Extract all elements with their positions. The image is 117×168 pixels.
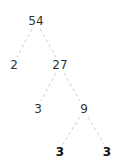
edge-27-3 (41, 73, 56, 101)
node-3: 3 (34, 102, 42, 116)
edge-9-3b (88, 117, 104, 144)
edge-27-9 (64, 73, 80, 101)
node-2: 2 (10, 58, 18, 72)
edge-54-2 (17, 29, 32, 57)
edge-54-27 (40, 29, 56, 57)
node-54: 54 (28, 14, 43, 28)
tree-edges (0, 0, 117, 168)
node-3-leaf-right: 3 (103, 145, 111, 159)
edge-9-3 (63, 117, 80, 144)
node-9: 9 (80, 102, 88, 116)
node-3-leaf-left: 3 (56, 145, 64, 159)
node-27: 27 (52, 58, 67, 72)
